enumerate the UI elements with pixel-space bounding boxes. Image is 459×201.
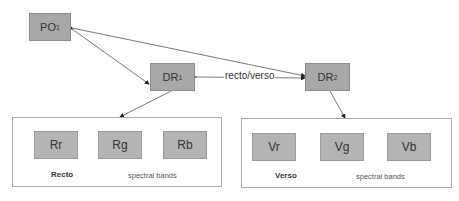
node-dr2-label: DR <box>318 71 334 83</box>
edge-po-dr1 <box>72 29 149 84</box>
band-vg[interactable]: Vg <box>320 133 364 161</box>
node-dr1[interactable]: DR1 <box>150 63 195 91</box>
recto-bands-label: spectral bands <box>128 171 177 180</box>
verso-bands-label: spectral bands <box>356 172 405 181</box>
verso-title: Verso <box>275 171 297 180</box>
edge-dr1-recto <box>120 90 173 117</box>
band-vr[interactable]: Vr <box>252 133 296 161</box>
band-vb[interactable]: Vb <box>387 133 431 161</box>
node-dr2-sub: 2 <box>333 74 337 81</box>
edge-label-recto-verso: recto/verso <box>224 70 275 81</box>
node-po1[interactable]: PO1 <box>29 13 71 41</box>
node-dr2[interactable]: DR2 <box>305 63 350 91</box>
node-po1-sub: 1 <box>56 24 60 31</box>
recto-title: Recto <box>51 170 73 179</box>
group-recto: Rr Rg Rb Recto spectral bands <box>12 117 222 187</box>
node-po1-label: PO <box>40 21 56 33</box>
band-rb[interactable]: Rb <box>163 131 207 159</box>
node-dr1-sub: 1 <box>178 74 182 81</box>
node-dr1-label: DR <box>163 71 179 83</box>
edge-dr2-verso <box>330 91 345 118</box>
band-rg[interactable]: Rg <box>98 131 142 159</box>
band-rr[interactable]: Rr <box>34 131 78 159</box>
group-verso: Vr Vg Vb Verso spectral bands <box>241 118 452 188</box>
